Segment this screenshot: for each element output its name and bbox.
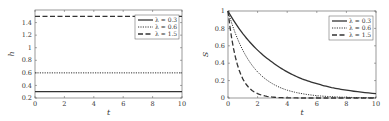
x-tick-label: 10 [178, 100, 186, 108]
legend: λ = 0.3λ = 0.6λ = 1.5 [329, 16, 373, 40]
x-tick-label: 4 [92, 100, 96, 108]
legend-label: λ = 1.5 [155, 30, 177, 37]
x-tick-label: 0 [226, 100, 230, 108]
legend-label: λ = 0.6 [349, 24, 371, 31]
y-axis-label: h [7, 51, 16, 56]
legend-label: λ = 0.3 [155, 16, 177, 23]
y-tick-label: 0.2 [22, 94, 32, 102]
y-tick-label: 1.2 [22, 31, 32, 39]
y-tick-label: 1 [28, 44, 32, 52]
x-tick-label: 2 [62, 100, 66, 108]
y-tick-label: 0.2 [215, 77, 225, 85]
x-tick-label: 4 [285, 100, 289, 108]
chart-panel-2: 024681000.20.40.60.81tSλ = 0.3λ = 0.6λ =… [201, 7, 380, 117]
x-tick-label: 6 [315, 100, 319, 108]
y-tick-label: 0.6 [215, 42, 225, 50]
y-tick-label: 0.8 [22, 56, 32, 64]
x-tick-label: 6 [121, 100, 125, 108]
y-axis-label: S [201, 51, 210, 57]
chart-panel-1: 02468100.20.40.60.811.21.4thλ = 0.3λ = 0… [7, 10, 186, 117]
legend-label: λ = 0.6 [155, 23, 177, 30]
x-axis-label: t [300, 108, 304, 117]
x-tick-label: 10 [372, 100, 380, 108]
legend-label: λ = 1.5 [349, 31, 371, 38]
chart-figure: 02468100.20.40.60.811.21.4thλ = 0.3λ = 0… [0, 0, 389, 121]
y-tick-label: 1.4 [22, 19, 32, 27]
x-tick-label: 8 [344, 100, 348, 108]
y-tick-label: 0 [221, 94, 225, 102]
x-tick-label: 2 [256, 100, 260, 108]
x-axis-label: t [107, 108, 111, 117]
legend: λ = 0.3λ = 0.6λ = 1.5 [135, 15, 179, 39]
x-tick-label: 8 [151, 100, 155, 108]
y-tick-label: 0.4 [215, 59, 225, 67]
y-tick-label: 0.8 [215, 25, 225, 33]
y-tick-label: 0.4 [22, 82, 32, 90]
y-tick-label: 1 [221, 7, 225, 15]
x-tick-label: 0 [33, 100, 37, 108]
y-tick-label: 0.6 [22, 69, 32, 77]
legend-label: λ = 0.3 [349, 17, 371, 24]
